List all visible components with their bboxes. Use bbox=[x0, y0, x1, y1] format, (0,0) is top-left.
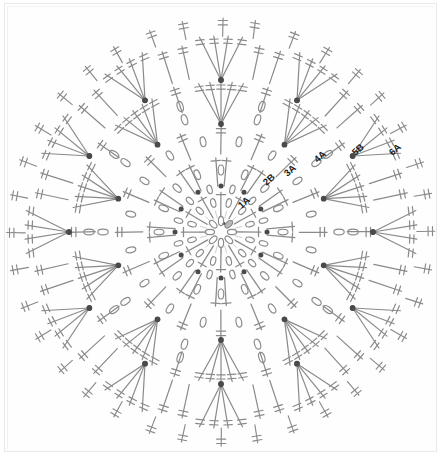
fan-cluster bbox=[195, 340, 247, 382]
stitch-symbol bbox=[78, 103, 105, 127]
stitch-symbol bbox=[177, 170, 195, 193]
chain-oval bbox=[199, 136, 206, 147]
stitch-symbol bbox=[374, 264, 407, 275]
guide-ray bbox=[215, 211, 217, 219]
fan-cluster bbox=[73, 251, 118, 301]
join-dot bbox=[242, 269, 247, 274]
chain-oval bbox=[158, 251, 169, 260]
chain-oval bbox=[253, 114, 262, 126]
join-dot bbox=[196, 190, 201, 195]
join-dot bbox=[219, 276, 224, 281]
stitch-symbol bbox=[348, 382, 362, 397]
stitch-symbol bbox=[319, 402, 331, 418]
join-dot bbox=[142, 361, 148, 367]
join-dot bbox=[258, 207, 263, 212]
chain-oval bbox=[125, 246, 136, 253]
stitch-symbol bbox=[369, 280, 401, 294]
guide-ray bbox=[225, 211, 227, 219]
chain-oval bbox=[165, 303, 175, 314]
stitch-symbol bbox=[11, 265, 29, 275]
chain-oval bbox=[139, 176, 150, 186]
chain-oval bbox=[206, 270, 213, 280]
stitch-symbol bbox=[260, 352, 272, 376]
join-dot bbox=[196, 269, 201, 274]
stitch-symbol bbox=[299, 227, 327, 236]
stitch-symbol bbox=[170, 352, 182, 377]
stitch-symbol bbox=[41, 169, 73, 183]
chain-oval bbox=[278, 229, 288, 235]
chain-oval bbox=[229, 185, 236, 195]
fan-cluster bbox=[373, 207, 417, 258]
chain-oval bbox=[139, 278, 150, 288]
stitch-symbol bbox=[177, 304, 191, 330]
chain-oval bbox=[247, 258, 257, 268]
stitch-symbol bbox=[186, 274, 202, 299]
stitch-symbol bbox=[237, 227, 261, 236]
chain-oval bbox=[218, 165, 224, 175]
chain-oval bbox=[273, 204, 284, 213]
chain-oval bbox=[125, 210, 136, 217]
stitch-symbol bbox=[10, 191, 27, 201]
stitch-symbol bbox=[325, 348, 350, 375]
stitch-symbol bbox=[337, 103, 364, 127]
round-label-layer: 1A2B3A4A5B6A bbox=[235, 141, 402, 210]
chart-page: 1A2B3A4A5B6A bbox=[0, 0, 442, 460]
round-label-4a: 4A bbox=[311, 148, 327, 164]
chain-oval bbox=[229, 270, 236, 280]
fan-cluster bbox=[42, 304, 90, 350]
chain-oval bbox=[195, 206, 205, 216]
stitch-symbol bbox=[371, 91, 385, 105]
stitch-symbol bbox=[269, 51, 283, 83]
stitch-symbol bbox=[111, 402, 122, 418]
stitch-symbol bbox=[123, 261, 149, 275]
join-dot bbox=[219, 184, 224, 189]
fan-cluster bbox=[103, 364, 149, 412]
stitch-symbol bbox=[177, 134, 191, 160]
stitch-symbol bbox=[241, 166, 256, 191]
stitch-symbol bbox=[337, 336, 364, 360]
chain-oval bbox=[292, 176, 303, 186]
join-dot bbox=[115, 196, 121, 202]
stitch-symbol bbox=[92, 349, 117, 375]
stitch-symbol bbox=[78, 336, 104, 361]
stitch-symbol bbox=[178, 384, 189, 417]
stitch-symbol bbox=[181, 227, 204, 236]
stitch-symbol bbox=[158, 52, 172, 84]
stitch-symbol bbox=[58, 360, 73, 373]
guide-ray bbox=[200, 236, 208, 238]
join-dot bbox=[218, 121, 224, 127]
stitch-symbol bbox=[145, 287, 166, 309]
chain-oval bbox=[193, 284, 202, 295]
join-dot bbox=[155, 142, 161, 148]
chain-oval bbox=[120, 296, 132, 307]
join-dot bbox=[350, 305, 356, 311]
chain-oval bbox=[206, 185, 213, 195]
join-dot bbox=[321, 262, 327, 268]
chain-oval bbox=[210, 198, 217, 208]
fan-cluster bbox=[25, 207, 69, 258]
fan-cluster bbox=[115, 99, 159, 145]
chain-oval bbox=[218, 289, 224, 299]
stitch-symbol bbox=[288, 416, 298, 433]
stitch-symbol bbox=[145, 156, 166, 177]
stitch-symbol bbox=[250, 21, 260, 39]
stitch-symbol bbox=[146, 30, 156, 47]
stitch-symbol bbox=[216, 192, 225, 216]
fan-cluster bbox=[73, 162, 118, 212]
stitch-symbol bbox=[7, 228, 26, 237]
chain-oval bbox=[306, 210, 317, 217]
join-dot bbox=[294, 97, 300, 103]
stitch-symbol bbox=[369, 169, 401, 183]
chain-oval bbox=[253, 338, 262, 350]
chain-oval bbox=[120, 157, 132, 168]
join-dot bbox=[258, 253, 263, 258]
stitch-symbol bbox=[154, 252, 179, 267]
chain-oval bbox=[224, 235, 234, 245]
stitch-symbol bbox=[97, 306, 119, 323]
chain-oval bbox=[172, 270, 183, 281]
round-label-1a: 1A bbox=[235, 194, 251, 210]
stitch-symbol bbox=[289, 31, 299, 48]
stitch-symbol bbox=[35, 189, 68, 200]
chain-oval bbox=[208, 219, 218, 229]
chain-oval bbox=[225, 256, 232, 266]
